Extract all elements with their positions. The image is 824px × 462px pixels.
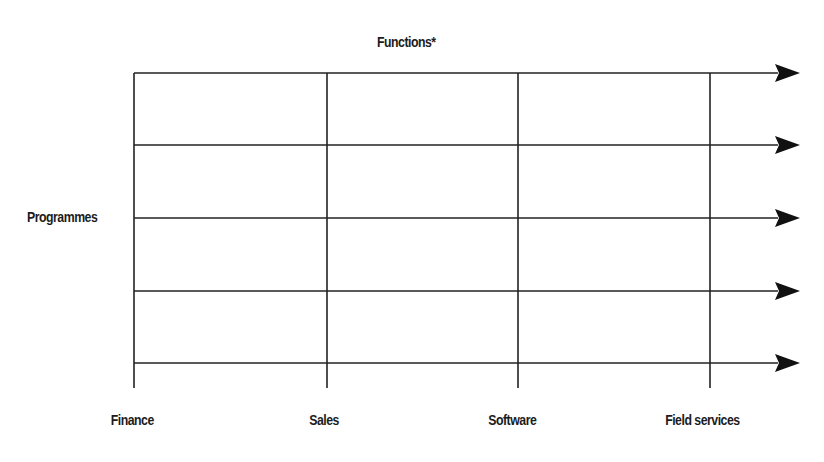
arrowhead-icon: [775, 354, 800, 372]
matrix-grid: [0, 0, 824, 462]
arrowhead-icon: [775, 209, 800, 227]
arrowhead-icon: [775, 282, 800, 300]
arrowhead-icon: [775, 64, 800, 82]
arrowhead-icon: [775, 136, 800, 154]
